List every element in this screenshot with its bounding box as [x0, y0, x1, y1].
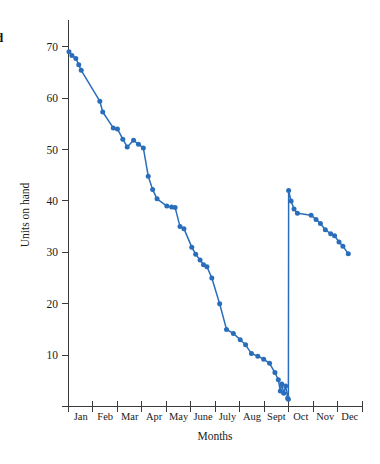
month-label-dec: Dec: [341, 411, 358, 422]
data-point: [79, 68, 84, 73]
data-point: [120, 137, 125, 142]
data-point: [136, 142, 141, 147]
data-point: [295, 211, 300, 216]
data-point: [292, 207, 297, 212]
data-point: [189, 245, 194, 250]
data-point: [337, 240, 342, 245]
data-point: [323, 227, 328, 232]
x-axis-month-labels: JanFebMarAprMayJuneJulyAugSeptOctNovDec: [74, 411, 359, 422]
data-point: [243, 342, 248, 347]
inventory-line-chart: 10203040506070 JanFebMarAprMayJuneJulyAu…: [0, 0, 380, 464]
month-label-july: July: [219, 411, 237, 422]
data-point: [238, 337, 243, 342]
units-on-hand-markers: [66, 49, 350, 401]
month-label-apr: Apr: [146, 411, 163, 422]
y-tick-label-40: 40: [47, 195, 59, 207]
figure-root: d 10203040506070 JanFebMarAprMayJuneJuly…: [0, 0, 380, 464]
data-point: [146, 174, 151, 179]
data-point: [283, 383, 288, 388]
data-point: [267, 361, 272, 366]
data-point: [249, 351, 254, 356]
data-point: [97, 99, 102, 104]
data-point: [346, 251, 351, 256]
y-tick-label-50: 50: [47, 144, 59, 156]
data-point: [217, 301, 222, 306]
data-point: [318, 221, 323, 226]
data-point: [141, 145, 146, 150]
data-point: [261, 357, 266, 362]
data-point: [76, 62, 81, 67]
data-point: [224, 327, 229, 332]
data-point: [150, 187, 155, 192]
y-axis-title: Units on hand: [19, 182, 31, 247]
data-point: [309, 213, 314, 218]
data-point: [314, 217, 319, 222]
data-point: [193, 252, 198, 257]
data-point: [131, 138, 136, 143]
data-point: [289, 198, 294, 203]
y-tick-label-20: 20: [47, 298, 59, 310]
month-label-aug: Aug: [243, 411, 262, 422]
data-point: [286, 188, 291, 193]
y-tick-label-60: 60: [47, 92, 59, 104]
y-axis-tick-labels: 10203040506070: [47, 41, 59, 361]
y-tick-label-10: 10: [47, 349, 59, 361]
data-point: [173, 205, 178, 210]
data-point: [332, 233, 337, 238]
data-point: [276, 377, 281, 382]
data-series-group: [66, 49, 350, 401]
data-point: [181, 226, 186, 231]
data-point: [231, 331, 236, 336]
data-point: [111, 125, 116, 130]
data-point: [209, 276, 214, 281]
data-point: [204, 264, 209, 269]
data-point: [198, 258, 203, 263]
data-point: [340, 244, 345, 249]
month-label-oct: Oct: [293, 411, 308, 422]
data-point: [164, 204, 169, 209]
data-point: [73, 56, 78, 61]
chart-axes: [62, 20, 362, 407]
y-axis-ticks: [62, 47, 69, 355]
data-point: [286, 397, 291, 402]
month-label-mar: Mar: [121, 411, 139, 422]
data-point: [272, 370, 277, 375]
month-label-may: May: [169, 411, 189, 422]
data-point: [115, 126, 120, 131]
y-tick-label-70: 70: [47, 41, 59, 53]
data-point: [125, 144, 130, 149]
y-tick-label-30: 30: [47, 246, 59, 258]
month-label-jan: Jan: [74, 411, 89, 422]
month-label-june: June: [193, 411, 213, 422]
units-on-hand-line: [69, 52, 348, 399]
x-axis-title: Months: [197, 430, 233, 442]
data-point: [100, 109, 105, 114]
data-point: [281, 391, 286, 396]
data-point: [255, 354, 260, 359]
data-point: [155, 196, 160, 201]
month-label-feb: Feb: [97, 411, 113, 422]
month-label-nov: Nov: [316, 411, 335, 422]
data-point: [69, 53, 74, 58]
month-label-sept: Sept: [267, 411, 286, 422]
